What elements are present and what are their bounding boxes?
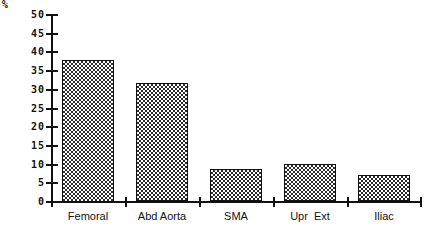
x-tick-mark [51,197,53,207]
y-tick-mark [46,164,58,166]
y-tick-mark [46,33,58,35]
x-tick-mark [420,197,422,207]
y-tick-label: 25 [5,104,45,114]
y-tick-label: 30 [5,85,45,95]
x-cat-label-sma: SMA [199,210,273,222]
y-tick-label: 20 [5,122,45,132]
y-axis-title: % [2,0,18,10]
y-tick-label: 50 [5,10,45,20]
y-tick-mark [46,145,58,147]
y-tick-mark [46,70,58,72]
bar-abd-aorta [136,83,188,201]
y-tick-mark [46,89,58,91]
bar-chart: % 50 45 40 35 30 25 20 15 10 5 0 Femoral… [0,0,426,231]
y-tick-mark [46,14,58,16]
x-cat-label-iliac: Iliac [347,210,421,222]
bar-femoral [62,60,114,202]
y-tick-label: 0 [5,197,45,207]
x-tick-mark [273,197,275,207]
y-tick-mark [46,126,58,128]
y-tick-label: 5 [5,178,45,188]
x-cat-label-femoral: Femoral [51,210,125,222]
x-cat-label-abd-aorta: Abd Aorta [125,210,199,222]
y-tick-mark [46,182,58,184]
x-cat-label-upr-ext: Upr Ext [273,210,347,222]
y-tick-label: 10 [5,160,45,170]
x-tick-mark [347,197,349,207]
bar-iliac [358,175,410,201]
bar-sma [210,169,262,201]
y-tick-mark [46,51,58,53]
x-tick-mark [125,197,127,207]
bar-upr-ext [284,164,336,201]
x-tick-mark [199,197,201,207]
y-tick-label: 45 [5,29,45,39]
y-tick-label: 35 [5,66,45,76]
y-tick-mark [46,108,58,110]
y-tick-label: 15 [5,141,45,151]
y-tick-label: 40 [5,47,45,57]
